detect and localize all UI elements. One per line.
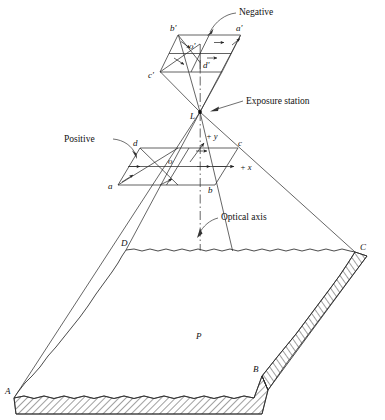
photogrammetry-diagram: b' a' c' d' o' Negative L Exposure stati… [0,0,385,420]
figure-canvas: b' a' c' d' o' Negative L Exposure stati… [0,0,385,420]
ground-corner-c-label: C [360,242,367,252]
exposure-station-point-label: L [189,111,195,121]
positive-axis-x-label: + x [240,162,252,172]
callout-optical-axis: Optical axis [197,212,267,238]
ground-terrain-block: A B C D P [4,238,367,414]
positive-center-label: o [168,156,173,166]
positive-corner-b-label: b [208,185,213,195]
ground-corner-b-label: B [253,364,259,374]
callout-positive: Positive [64,134,137,159]
positive-corner-c-label: c [238,138,242,148]
positive-image-plane: + x + y a b c d o [108,131,252,195]
ground-corner-a-label: A [4,386,11,396]
negative-center-label: o' [189,41,197,51]
negative-corner-b-label: b' [170,23,178,33]
negative-image-plane: b' a' c' d' o' [148,23,244,80]
negative-corner-a-label: a' [236,23,244,33]
positive-corner-a-label: a [108,181,113,191]
optical-axis-callout-label: Optical axis [221,212,267,222]
ground-corner-d-label: D [120,238,128,248]
positive-corner-d-label: d [133,138,138,148]
positive-axis-y-label: + y [206,131,218,141]
positive-callout-label: Positive [64,134,95,144]
negative-corner-d-label: d' [203,60,211,70]
principal-point-label: P [195,331,202,341]
negative-callout-label: Negative [239,7,273,17]
negative-corner-c-label: c' [148,70,155,80]
exposure-station-callout-label: Exposure station [246,96,310,106]
